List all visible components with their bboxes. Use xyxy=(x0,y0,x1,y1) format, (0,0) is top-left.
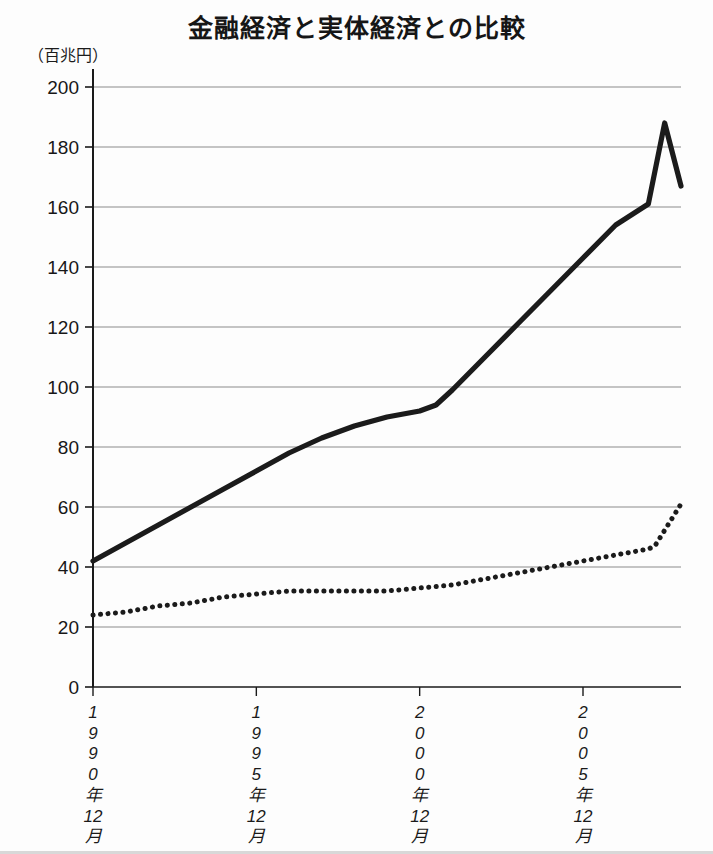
svg-text:80: 80 xyxy=(58,437,79,458)
x-tick-label-char: 1 xyxy=(80,703,106,724)
x-tick-label-char: 9 xyxy=(80,724,106,745)
axis-lines xyxy=(93,69,681,687)
x-tick-label-char: 2 xyxy=(407,703,433,724)
svg-text:40: 40 xyxy=(58,557,79,578)
x-tick-label-char: 月 xyxy=(80,827,106,848)
x-axis-ticks xyxy=(93,687,583,696)
svg-text:0: 0 xyxy=(68,677,79,698)
svg-text:140: 140 xyxy=(47,257,79,278)
x-tick-label-char: 9 xyxy=(80,744,106,765)
x-tick-label-char: 0 xyxy=(80,765,106,786)
svg-text:180: 180 xyxy=(47,137,79,158)
x-tick-label-char: 9 xyxy=(243,724,269,745)
x-tick-label-char: 月 xyxy=(407,827,433,848)
svg-text:100: 100 xyxy=(47,377,79,398)
x-tick-label-char: 2 xyxy=(570,703,596,724)
x-tick-label-char: 0 xyxy=(407,744,433,765)
x-tick-label-char: 12 xyxy=(407,807,433,828)
x-tick-label-char: 5 xyxy=(570,765,596,786)
x-tick-label-char: 0 xyxy=(570,724,596,745)
x-axis-tick-label: 1990年12月 xyxy=(80,703,106,848)
data-series-group xyxy=(93,123,681,615)
svg-text:60: 60 xyxy=(58,497,79,518)
svg-text:120: 120 xyxy=(47,317,79,338)
y-axis-ticks: 020406080100120140160180200 xyxy=(47,77,93,698)
x-tick-label-char: 5 xyxy=(243,765,269,786)
x-tick-label-char: 12 xyxy=(570,807,596,828)
x-tick-label-char: 年 xyxy=(243,786,269,807)
x-tick-label-char: 月 xyxy=(243,827,269,848)
x-tick-label-char: 0 xyxy=(407,724,433,745)
svg-text:200: 200 xyxy=(47,77,79,98)
svg-text:160: 160 xyxy=(47,197,79,218)
x-axis-tick-label: 2005年12月 xyxy=(570,703,596,848)
svg-text:20: 20 xyxy=(58,617,79,638)
chart-figure: 金融経済と実体経済との比較 （百兆円） 02040608010012014016… xyxy=(0,0,713,854)
x-tick-label-char: 12 xyxy=(80,807,106,828)
x-tick-label-char: 1 xyxy=(243,703,269,724)
x-axis-tick-label: 1995年12月 xyxy=(243,703,269,848)
x-axis-tick-label: 2000年12月 xyxy=(407,703,433,848)
x-tick-label-char: 0 xyxy=(407,765,433,786)
series-line-0 xyxy=(93,123,681,561)
x-tick-label-char: 9 xyxy=(243,744,269,765)
gridlines xyxy=(93,87,681,627)
x-tick-label-char: 月 xyxy=(570,827,596,848)
x-tick-label-char: 年 xyxy=(407,786,433,807)
x-tick-label-char: 年 xyxy=(570,786,596,807)
series-line-1 xyxy=(93,504,681,615)
x-tick-label-char: 年 xyxy=(80,786,106,807)
x-tick-label-char: 12 xyxy=(243,807,269,828)
plot-area: 020406080100120140160180200 xyxy=(0,0,713,854)
x-tick-label-char: 0 xyxy=(570,744,596,765)
